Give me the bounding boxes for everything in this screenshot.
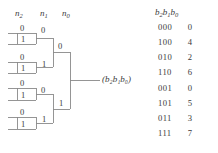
table-cell-value: 4 [182,38,192,47]
table-row: 1106 [158,68,192,77]
table-cell-bits: 101 [158,99,182,108]
leaf-label-g3-bottom: 1 [21,91,25,100]
table-row: 0113 [158,114,192,123]
edge-label-n1-c: 0 [41,86,45,95]
table-row: 0102 [158,53,192,62]
leaf-label-g1-top: 0 [20,24,24,33]
table-cell-bits: 100 [158,38,182,47]
table-cell-value: 3 [182,114,192,123]
leaf-label-g1-bottom: 1 [21,35,25,44]
table-cell-value: 0 [182,84,192,93]
edge-label-n1-d: 1 [42,115,46,124]
table-row: 1015 [158,99,192,108]
leaf-label-g2-bottom: 1 [21,64,25,73]
table-cell-value: 7 [182,129,192,138]
table-row: 1117 [158,129,192,138]
table-row: 0010 [158,84,192,93]
table-cell-value: 2 [182,53,192,62]
table-row: 1004 [158,38,192,47]
edge-label-n0-top: 0 [58,42,62,51]
edge-label-n1-a: 0 [41,26,45,35]
table-cell-bits: 010 [158,53,182,62]
table-cell-value: 5 [182,99,192,108]
table-cell-bits: 011 [158,114,182,123]
decision-tree-figure: n2 n1 n0 [0,0,218,153]
leaf-label-g4-top: 0 [20,108,24,117]
table-header-sub-0: 0 [175,11,178,18]
table-row: 0000 [158,23,192,32]
table-cell-bits: 110 [158,68,182,77]
table-cell-bits: 000 [158,23,182,32]
edge-label-n0-bottom: 1 [59,99,63,108]
table-cell-bits: 001 [158,84,182,93]
leaf-label-g2-top: 0 [20,53,24,62]
table-header: b2b1b0 [155,8,178,18]
leaf-label-g4-bottom: 1 [21,120,25,129]
edge-label-n1-b: 1 [42,60,46,69]
table-cell-value: 6 [182,68,192,77]
root-output-label: (b₂b₁b₀) [102,75,131,84]
leaf-label-g3-top: 0 [20,79,24,88]
table-cell-value: 0 [182,23,192,32]
table-cell-bits: 111 [158,129,182,138]
